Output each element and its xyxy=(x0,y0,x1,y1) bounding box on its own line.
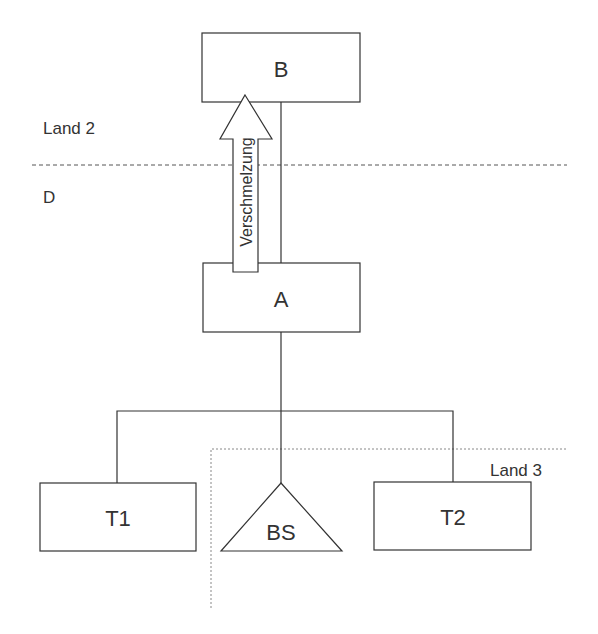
link-branch-t1-t2 xyxy=(117,411,453,483)
node-a-label: A xyxy=(274,287,289,312)
region-label-d: D xyxy=(43,188,55,207)
region-label-land2: Land 2 xyxy=(43,119,95,138)
node-t2-label: T2 xyxy=(440,505,466,530)
node-t1-label: T1 xyxy=(105,506,131,531)
diagram-canvas: B A Verschmelzung Land 2 D Land 3 T1 BS … xyxy=(0,0,598,634)
merge-arrow-label: Verschmelzung xyxy=(238,137,255,246)
node-b-label: B xyxy=(274,57,289,82)
node-bs-label: BS xyxy=(266,520,295,545)
region-label-land3: Land 3 xyxy=(490,461,542,480)
